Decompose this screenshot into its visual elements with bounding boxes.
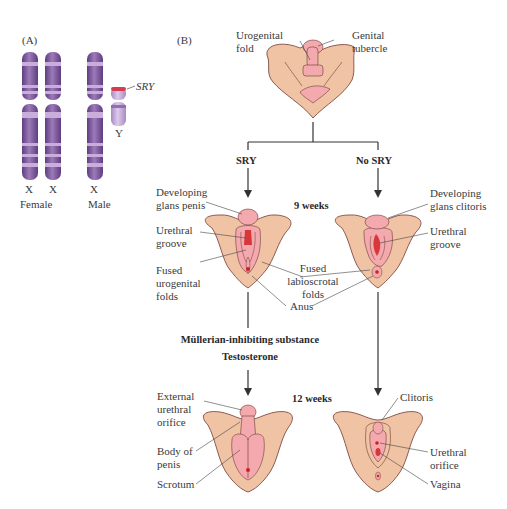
urethral-groove-female-label: Urethral groove	[430, 225, 467, 251]
urogenital-fold-line1: Urogenital	[236, 29, 283, 42]
fused-labioscrotal-line1: Fused	[283, 262, 343, 275]
external-urethral-orifice-line3: orifice	[157, 416, 194, 429]
clitoris-label: Clitoris	[400, 391, 433, 404]
urethral-orifice-line1: Urethral	[430, 446, 467, 459]
developing-glans-penis-label: Developing glans penis	[156, 186, 207, 212]
fused-urogenital-line3: folds	[156, 290, 201, 303]
branch-no-sry-label: No SRY	[356, 154, 392, 167]
development-diagram	[0, 0, 507, 509]
male-12-weeks-illustration	[203, 405, 292, 492]
urethral-groove-female-line1: Urethral	[430, 225, 467, 238]
developing-glans-clitoris-line1: Developing	[430, 187, 487, 200]
body-of-penis-line1: Body of	[157, 445, 193, 458]
urethral-groove-female-line2: groove	[430, 238, 467, 251]
fused-urogenital-line1: Fused	[156, 264, 201, 277]
vagina-label: Vagina	[430, 478, 461, 491]
fused-labioscrotal-line2: labioscrotal	[283, 275, 343, 288]
fused-labioscrotal-folds-label: Fused labioscrotal folds	[283, 262, 343, 301]
external-urethral-orifice-line2: urethral	[157, 403, 194, 416]
genital-tubercle-label: Genital tubercle	[352, 29, 387, 55]
developing-glans-penis-line2: glans penis	[156, 199, 207, 212]
external-urethral-orifice-line1: External	[157, 390, 194, 403]
external-urethral-orifice-label: External urethral orifice	[157, 390, 194, 429]
branch-sry-label: SRY	[236, 154, 257, 167]
fused-urogenital-folds-label: Fused urogenital folds	[156, 264, 201, 303]
urethral-orifice-line2: orifice	[430, 459, 467, 472]
body-of-penis-label: Body of penis	[157, 445, 193, 471]
genital-tubercle-line2: tubercle	[352, 42, 387, 55]
urethral-groove-male-line2: groove	[156, 237, 193, 250]
urethral-orifice-label: Urethral orifice	[430, 446, 467, 472]
female-9-weeks-illustration	[335, 215, 421, 288]
urethral-groove-male-line1: Urethral	[156, 224, 193, 237]
urethral-groove-male-label: Urethral groove	[156, 224, 193, 250]
anus-label: Anus	[290, 300, 313, 313]
fused-urogenital-line2: urogenital	[156, 277, 201, 290]
stage-12-weeks-label: 12 weeks	[292, 392, 332, 405]
developing-glans-clitoris-line2: glans clitoris	[430, 200, 487, 213]
urogenital-fold-line2: fold	[236, 42, 283, 55]
female-12-weeks-illustration	[333, 412, 422, 492]
body-of-penis-line2: penis	[157, 458, 193, 471]
hormone-testosterone-label: Testosterone	[170, 350, 330, 363]
male-9-weeks-illustration	[205, 209, 291, 288]
hormone-mis-label: Müllerian-inhibiting substance	[170, 333, 330, 346]
urogenital-fold-label: Urogenital fold	[236, 29, 283, 55]
stage-9-weeks-label: 9 weeks	[294, 199, 329, 212]
genital-tubercle-line1: Genital	[352, 29, 387, 42]
scrotum-label: Scrotum	[157, 478, 194, 491]
developing-glans-penis-line1: Developing	[156, 186, 207, 199]
developing-glans-clitoris-label: Developing glans clitoris	[430, 187, 487, 213]
